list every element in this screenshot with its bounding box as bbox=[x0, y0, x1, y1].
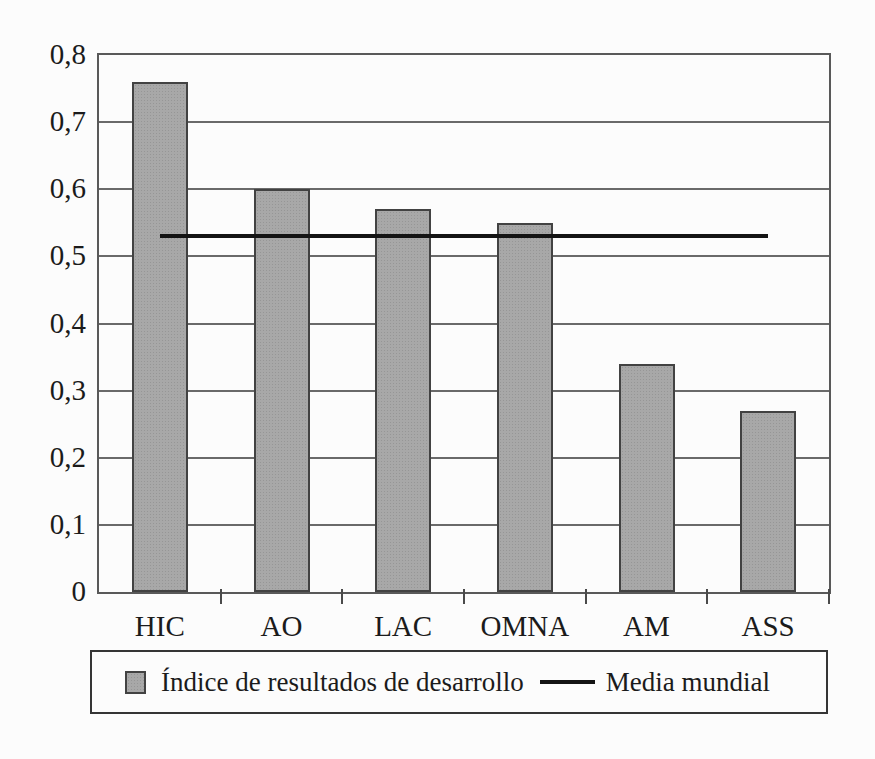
gridline bbox=[99, 524, 829, 526]
category-label-ass: ASS bbox=[707, 610, 829, 642]
category-label-ao: AO bbox=[221, 610, 343, 642]
y-tick-label-0_5: 0,5 bbox=[24, 238, 86, 272]
legend-label-bars: Índice de resultados de desarrollo bbox=[161, 667, 524, 698]
chart-legend: Índice de resultados de desarrollo Media… bbox=[90, 650, 828, 714]
x-axis-tick bbox=[220, 589, 222, 604]
gridline bbox=[99, 323, 829, 325]
gridline bbox=[99, 121, 829, 123]
legend-item-media-line: Media mundial bbox=[540, 667, 770, 698]
gridline bbox=[99, 255, 829, 257]
legend-label-media-line: Media mundial bbox=[606, 667, 770, 698]
bar-omna bbox=[497, 223, 553, 592]
bar-lac bbox=[375, 209, 431, 592]
line-swatch-icon bbox=[540, 680, 595, 684]
y-tick-label-0_8: 0,8 bbox=[24, 37, 86, 71]
chart-canvas: 00,10,20,30,40,50,60,70,8 HICAOLACOMNAAM… bbox=[0, 0, 875, 759]
x-axis-tick bbox=[585, 589, 587, 604]
x-axis-tick bbox=[463, 589, 465, 604]
category-label-lac: LAC bbox=[342, 610, 464, 642]
x-axis-tick bbox=[706, 589, 708, 604]
gridline bbox=[99, 390, 829, 392]
x-axis-tick bbox=[341, 589, 343, 604]
y-tick-label-0_1: 0,1 bbox=[24, 507, 86, 541]
bar-am bbox=[619, 364, 675, 592]
category-label-omna: OMNA bbox=[464, 610, 586, 642]
bar-swatch-icon bbox=[125, 671, 146, 694]
y-tick-label-0_2: 0,2 bbox=[24, 440, 86, 474]
gridline bbox=[99, 457, 829, 459]
category-label-am: AM bbox=[586, 610, 708, 642]
bar-ao bbox=[254, 189, 310, 592]
y-tick-label-0: 0 bbox=[24, 574, 86, 608]
plot-area bbox=[97, 53, 831, 594]
gridline bbox=[99, 188, 829, 190]
legend-item-bars: Índice de resultados de desarrollo bbox=[125, 667, 524, 698]
y-tick-label-0_7: 0,7 bbox=[24, 104, 86, 138]
bar-hic bbox=[132, 82, 188, 592]
y-tick-label-0_6: 0,6 bbox=[24, 171, 86, 205]
x-axis-tick bbox=[828, 589, 830, 604]
media-mundial-line bbox=[160, 234, 768, 238]
category-label-hic: HIC bbox=[99, 610, 221, 642]
y-tick-label-0_3: 0,3 bbox=[24, 373, 86, 407]
y-tick-label-0_4: 0,4 bbox=[24, 306, 86, 340]
bar-ass bbox=[740, 411, 796, 592]
